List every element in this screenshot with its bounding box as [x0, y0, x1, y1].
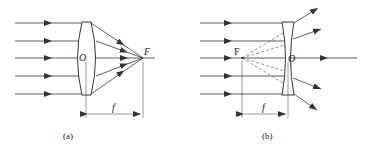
- caption-b: (b): [262, 131, 273, 141]
- focal-length-dimension-b: [242, 60, 288, 118]
- focus-label-a: F: [143, 46, 151, 57]
- focal-length-label-a: f: [112, 102, 116, 113]
- caption-a: (a): [63, 131, 73, 141]
- focus-point-b: [241, 57, 243, 59]
- convex-lens-diagram: O F f (a): [15, 22, 155, 141]
- focal-length-label-b: f: [262, 102, 266, 113]
- concave-lens-diagram: F O f (b): [200, 8, 357, 141]
- converging-rays: [91, 23, 143, 94]
- center-label-b: O: [288, 53, 295, 64]
- incoming-rays-b: [200, 23, 357, 94]
- focus-label-b: F: [234, 46, 240, 57]
- diverging-rays: [293, 8, 321, 110]
- center-label-a: O: [79, 52, 86, 63]
